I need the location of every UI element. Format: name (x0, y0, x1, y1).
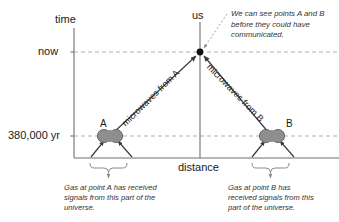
incoming-signals-b (252, 141, 294, 157)
brace-b (252, 163, 289, 178)
annotation-leader-line (204, 14, 227, 48)
observer-label-us: us (192, 10, 204, 21)
caption-point-a: Gas at point A has received signals from… (64, 183, 180, 214)
gas-blob-a (97, 129, 122, 142)
y-tick-label-now: now (38, 46, 58, 57)
ray-label-microwaves-from-b: microwaves from B (205, 62, 266, 124)
point-label-b: B (286, 119, 293, 129)
spacetime-diagram: time now 380,000 yr distance us A B micr… (0, 0, 339, 222)
caption-point-b: Gas at point B has received signals from… (228, 183, 336, 214)
y-axis-title: time (55, 14, 76, 25)
y-axis-time (71, 28, 75, 158)
incoming-signals-a (91, 141, 132, 157)
ray-label-microwaves-from-a: microwaves from A (120, 68, 181, 128)
brace-a (90, 163, 127, 178)
point-label-a: A (100, 119, 107, 129)
annotation-observer: We can see points A and B before they co… (231, 9, 337, 41)
observer-dot (197, 49, 204, 56)
y-tick-label-380000yr: 380,000 yr (8, 130, 60, 141)
x-axis-title: distance (178, 162, 219, 173)
gas-blob-b (259, 129, 284, 142)
